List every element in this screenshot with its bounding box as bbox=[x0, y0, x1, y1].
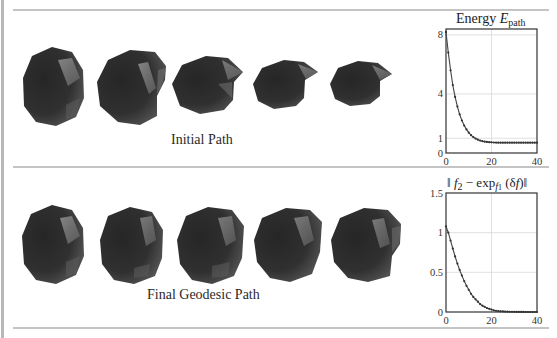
data-point bbox=[488, 141, 490, 143]
data-point bbox=[522, 142, 524, 144]
data-point bbox=[531, 311, 533, 313]
data-point bbox=[497, 142, 499, 144]
data-point bbox=[493, 141, 495, 143]
data-point bbox=[479, 140, 481, 142]
x-tick-label: 40 bbox=[532, 315, 543, 326]
x-tick-label: 20 bbox=[486, 156, 497, 167]
data-point bbox=[461, 119, 463, 121]
data-point bbox=[509, 311, 511, 313]
data-point bbox=[463, 280, 465, 282]
data-point bbox=[486, 307, 488, 309]
data-point bbox=[495, 310, 497, 312]
data-point bbox=[506, 142, 508, 144]
y-tick-label: 1 bbox=[438, 227, 443, 238]
data-point bbox=[502, 310, 504, 312]
y-tick-label: 1.5 bbox=[430, 188, 443, 199]
y-tick-label: 8 bbox=[438, 29, 443, 40]
data-point bbox=[461, 274, 463, 276]
data-point bbox=[534, 142, 536, 144]
data-point bbox=[445, 31, 447, 33]
data-point bbox=[527, 311, 529, 313]
data-point bbox=[509, 142, 511, 144]
data-point bbox=[520, 142, 522, 144]
data-point bbox=[529, 311, 531, 313]
data-point bbox=[500, 310, 502, 312]
data-point bbox=[515, 142, 517, 144]
data-point bbox=[465, 285, 467, 287]
data-point bbox=[500, 142, 502, 144]
data-point bbox=[536, 142, 538, 144]
data-point bbox=[470, 134, 472, 136]
data-point bbox=[518, 142, 520, 144]
data-point bbox=[504, 142, 506, 144]
data-point bbox=[486, 141, 488, 143]
data-point bbox=[495, 141, 497, 143]
data-point bbox=[520, 311, 522, 313]
data-point bbox=[445, 225, 447, 227]
data-point bbox=[454, 255, 456, 257]
data-point bbox=[513, 311, 515, 313]
data-point bbox=[474, 298, 476, 300]
data-point bbox=[511, 142, 513, 144]
data-point bbox=[511, 311, 513, 313]
data-point bbox=[518, 311, 520, 313]
x-tick-label: 40 bbox=[532, 156, 543, 167]
data-point bbox=[531, 142, 533, 144]
data-point bbox=[459, 113, 461, 115]
data-point bbox=[465, 128, 467, 130]
data-point bbox=[522, 311, 524, 313]
data-point bbox=[497, 310, 499, 312]
data-point bbox=[481, 140, 483, 142]
data-point bbox=[490, 309, 492, 311]
data-point bbox=[527, 142, 529, 144]
y-tick-label: 1 bbox=[438, 133, 443, 144]
data-point bbox=[474, 137, 476, 139]
data-point bbox=[468, 289, 470, 291]
data-point bbox=[513, 142, 515, 144]
data-point bbox=[490, 141, 492, 143]
data-point bbox=[502, 142, 504, 144]
convergence-charts: 0204001480204000.511.5 bbox=[0, 0, 557, 338]
data-point bbox=[488, 308, 490, 310]
data-point bbox=[479, 303, 481, 305]
x-tick-label: 20 bbox=[486, 315, 497, 326]
data-point bbox=[454, 96, 456, 98]
y-tick-label: 0 bbox=[438, 307, 443, 318]
data-point bbox=[534, 311, 536, 313]
data-point bbox=[449, 240, 451, 242]
data-point bbox=[452, 84, 454, 86]
data-point bbox=[447, 52, 449, 54]
data-point bbox=[525, 142, 527, 144]
y-tick-label: 4 bbox=[438, 88, 444, 99]
data-point bbox=[449, 69, 451, 71]
data-point bbox=[470, 293, 472, 295]
data-point bbox=[447, 232, 449, 234]
data-point bbox=[529, 142, 531, 144]
data-point bbox=[468, 132, 470, 134]
data-point bbox=[456, 105, 458, 107]
data-point bbox=[493, 309, 495, 311]
data-point bbox=[506, 311, 508, 313]
data-point bbox=[515, 311, 517, 313]
x-tick-label: 0 bbox=[443, 156, 448, 167]
data-point bbox=[484, 141, 486, 143]
data-point bbox=[472, 136, 474, 138]
data-point bbox=[477, 301, 479, 303]
data-point bbox=[472, 296, 474, 298]
y-tick-label: 0 bbox=[438, 148, 443, 159]
data-point bbox=[481, 305, 483, 307]
data-point bbox=[463, 124, 465, 126]
data-point bbox=[484, 306, 486, 308]
data-point bbox=[459, 269, 461, 271]
y-tick-label: 0.5 bbox=[430, 267, 443, 278]
data-point bbox=[525, 311, 527, 313]
data-point bbox=[452, 247, 454, 249]
data-point bbox=[477, 139, 479, 141]
data-point bbox=[456, 263, 458, 265]
x-tick-label: 0 bbox=[443, 315, 448, 326]
data-point bbox=[504, 311, 506, 313]
data-point bbox=[536, 311, 538, 313]
